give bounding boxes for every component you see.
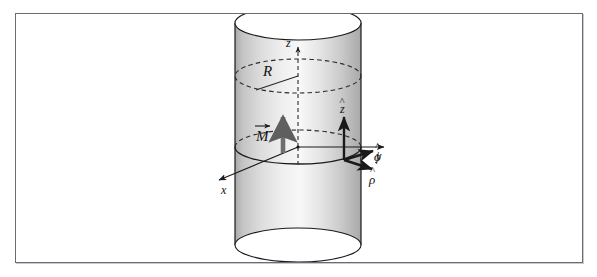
figure-root: R z y x <box>0 0 597 277</box>
origin-point <box>296 145 299 148</box>
cylinder-bottom-cut <box>235 228 361 262</box>
z-hat-label-group: z ^ <box>339 95 346 116</box>
rho-hat-label-group: ρ ^ <box>368 164 376 187</box>
phi-hat-circumflex: ^ <box>375 140 381 152</box>
radius-label: R <box>262 63 272 79</box>
magnetization-label: M <box>255 128 270 144</box>
phi-hat-label-group: ϕ ^ <box>374 140 381 164</box>
magnetization-label-group: M <box>255 126 270 144</box>
z-axis-label: z <box>285 36 291 50</box>
magnetized-cylinder-diagram: R z y x <box>16 14 582 262</box>
z-hat-circumflex: ^ <box>340 95 346 107</box>
x-axis-label: x <box>220 183 227 197</box>
figure-frame: R z y x <box>15 13 583 263</box>
rho-hat-circumflex: ^ <box>370 164 376 176</box>
